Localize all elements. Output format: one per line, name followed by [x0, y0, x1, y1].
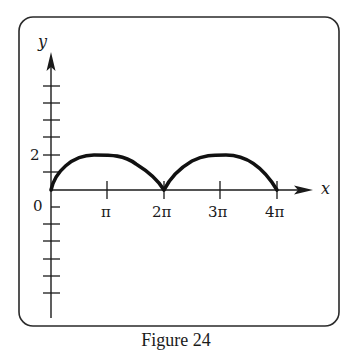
- origin-label: 0: [33, 197, 43, 215]
- x-tick-label-pi: π: [101, 203, 111, 221]
- x-tick-label-4pi: 4π: [265, 203, 285, 221]
- x-tick-label-3pi: 3π: [208, 203, 228, 221]
- x-tick-label-2pi: 2π: [152, 203, 172, 221]
- y-axis-label: y: [37, 32, 48, 51]
- y-tick-label-2: 2: [30, 146, 40, 164]
- figure-caption: Figure 24: [0, 330, 352, 351]
- x-axis-label: x: [321, 179, 330, 198]
